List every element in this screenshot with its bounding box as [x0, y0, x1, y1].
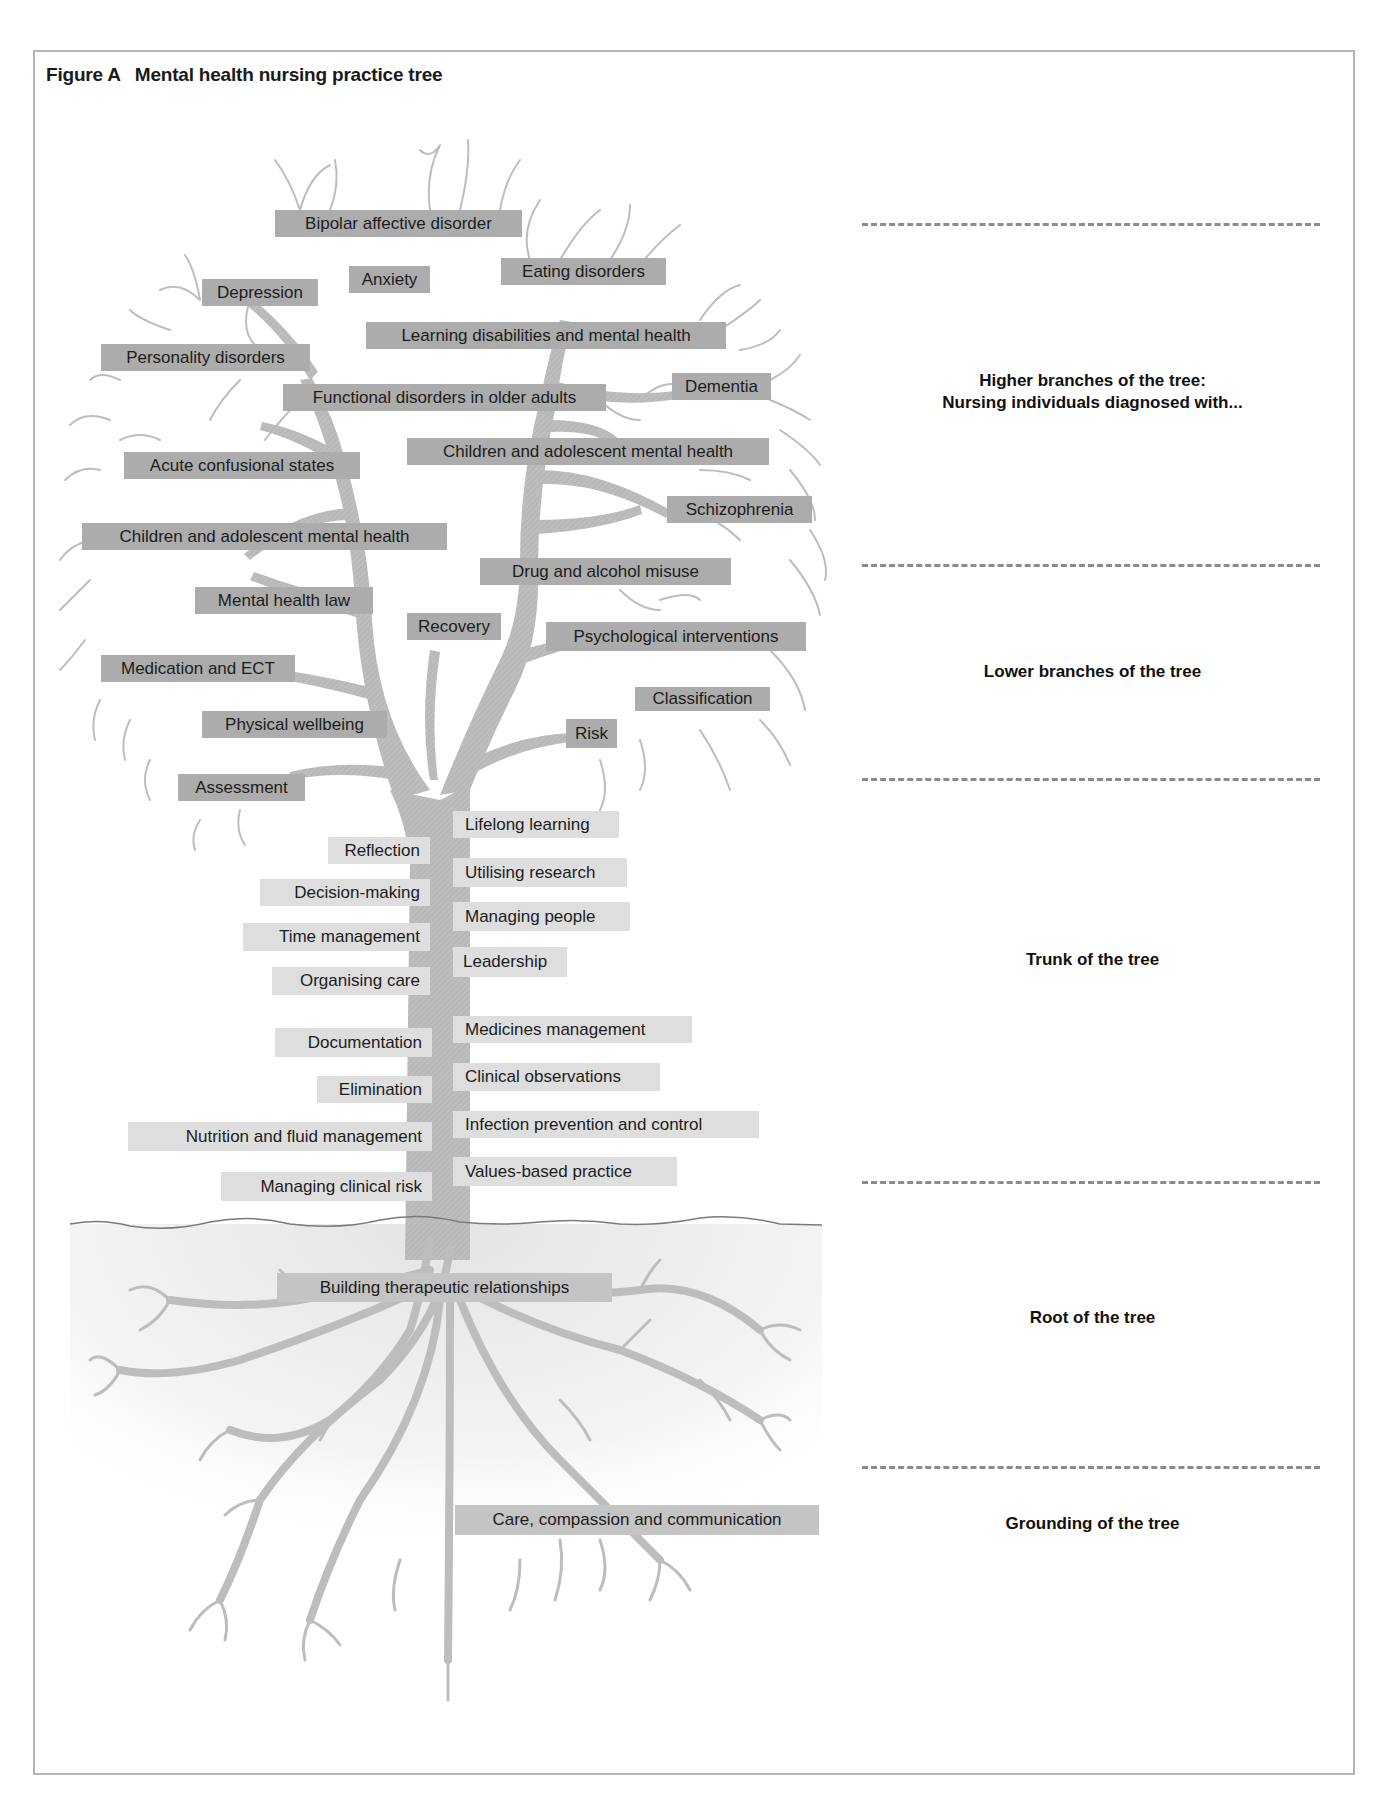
label-drug-alcohol-misuse: Drug and alcohol misuse	[480, 558, 731, 585]
label-classification: Classification	[635, 687, 770, 711]
label-nutrition-fluid-management: Nutrition and fluid management	[128, 1122, 432, 1151]
label-eating-disorders: Eating disorders	[501, 258, 666, 285]
label-learning-disabilities: Learning disabilities and mental health	[366, 322, 726, 349]
label-personality-disorders: Personality disorders	[101, 344, 310, 371]
divider-top	[862, 223, 1320, 226]
label-decision-making: Decision-making	[260, 879, 430, 906]
label-building-therapeutic-relationships: Building therapeutic relationships	[277, 1273, 612, 1302]
label-recovery: Recovery	[407, 613, 501, 640]
label-managing-clinical-risk: Managing clinical risk	[221, 1172, 432, 1201]
label-anxiety: Anxiety	[349, 266, 430, 293]
label-assessment: Assessment	[178, 774, 305, 801]
label-infection-prevention-control: Infection prevention and control	[453, 1111, 759, 1138]
section-higher-branches: Higher branches of the tree: Nursing ind…	[900, 370, 1285, 414]
label-leadership: Leadership	[453, 947, 567, 977]
label-physical-wellbeing: Physical wellbeing	[202, 711, 387, 738]
section-higher-branches-line2: Nursing individuals diagnosed with...	[900, 392, 1285, 414]
label-psychological-interventions: Psychological interventions	[546, 622, 806, 651]
section-lower-branches: Lower branches of the tree	[900, 661, 1285, 683]
label-values-based-practice: Values-based practice	[453, 1157, 677, 1186]
label-time-management: Time management	[243, 923, 430, 951]
label-risk: Risk	[566, 719, 617, 748]
label-mental-health-law: Mental health law	[195, 587, 373, 614]
label-managing-people: Managing people	[453, 902, 630, 931]
section-higher-branches-line1: Higher branches of the tree:	[900, 370, 1285, 392]
divider-root-grounding	[862, 1466, 1320, 1469]
label-utilising-research: Utilising research	[453, 858, 627, 887]
label-children-adolescent-mental-health-right: Children and adolescent mental health	[407, 438, 769, 465]
section-grounding: Grounding of the tree	[900, 1513, 1285, 1535]
label-documentation: Documentation	[275, 1028, 432, 1057]
label-depression: Depression	[202, 279, 318, 306]
label-medication-ect: Medication and ECT	[101, 655, 295, 682]
label-functional-disorders-older-adults: Functional disorders in older adults	[283, 384, 606, 411]
crown-twigs	[60, 140, 826, 850]
label-lifelong-learning: Lifelong learning	[453, 811, 619, 838]
divider-trunk-root	[862, 1181, 1320, 1184]
label-children-adolescent-mental-health-left: Children and adolescent mental health	[82, 523, 447, 550]
label-clinical-observations: Clinical observations	[453, 1063, 660, 1091]
label-organising-care: Organising care	[272, 967, 430, 995]
label-dementia: Dementia	[672, 373, 771, 400]
label-acute-confusional-states: Acute confusional states	[124, 452, 360, 479]
divider-lower-trunk	[862, 778, 1320, 781]
section-root: Root of the tree	[900, 1307, 1285, 1329]
label-medicines-management: Medicines management	[453, 1016, 692, 1043]
section-trunk: Trunk of the tree	[900, 949, 1285, 971]
label-elimination: Elimination	[317, 1076, 432, 1103]
divider-higher-lower	[862, 564, 1320, 567]
tree-illustration	[0, 0, 1384, 1809]
label-care-compassion-communication: Care, compassion and communication	[455, 1505, 819, 1535]
label-bipolar-affective-disorder: Bipolar affective disorder	[275, 210, 522, 237]
label-schizophrenia: Schizophrenia	[667, 496, 812, 523]
label-reflection: Reflection	[328, 837, 430, 864]
